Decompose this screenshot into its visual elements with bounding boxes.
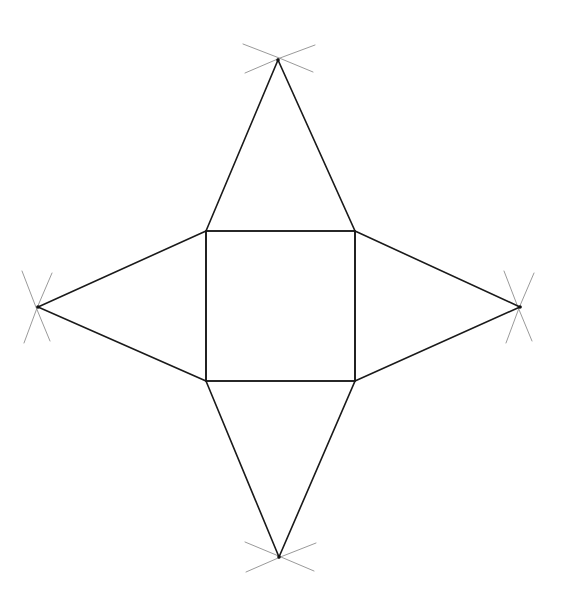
left-triangle xyxy=(38,231,206,381)
top-triangle xyxy=(206,60,355,231)
apex-bottom-dot xyxy=(277,555,281,559)
arc-left-a xyxy=(22,271,50,341)
apex-top-dot xyxy=(276,58,280,62)
apex-left-dot xyxy=(36,305,40,309)
bottom-triangle xyxy=(206,381,355,557)
apex-right-dot xyxy=(518,305,522,309)
construction-arcs-group xyxy=(22,44,534,572)
figure-edges-group xyxy=(38,60,520,557)
apex-vertex-dots-group xyxy=(36,58,522,559)
geometric-figure xyxy=(0,0,567,601)
arc-top-a xyxy=(243,44,313,72)
right-triangle xyxy=(355,231,520,381)
central-square xyxy=(206,231,355,381)
drawing-canvas xyxy=(0,0,567,601)
